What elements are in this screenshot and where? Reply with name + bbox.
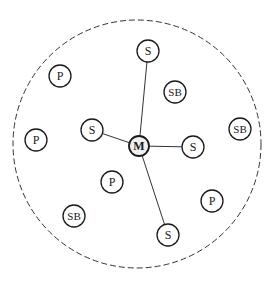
- node-slave-s2: S: [81, 119, 103, 141]
- node-parked-p3: P: [101, 171, 123, 193]
- nodes-group: MSSSSSBSBSBPPPP: [25, 40, 251, 246]
- node-standby-sb1: SB: [164, 81, 186, 103]
- node-label: S: [165, 228, 172, 242]
- edge-m-s2: [102, 134, 129, 143]
- diagram-svg: MSSSSSBSBSBPPPP: [0, 0, 275, 284]
- node-parked-p2: P: [25, 129, 47, 151]
- node-label: P: [57, 69, 64, 83]
- edge-m-s3: [149, 146, 182, 147]
- piconet-diagram: MSSSSSBSBSBPPPP: [0, 0, 275, 284]
- node-standby-sb2: SB: [229, 118, 251, 140]
- node-slave-s1: S: [137, 40, 159, 62]
- edge-m-s1: [140, 62, 147, 136]
- node-label: S: [89, 123, 96, 137]
- node-label: SB: [168, 86, 181, 98]
- node-parked-p1: P: [49, 65, 71, 87]
- node-master-m: M: [129, 136, 149, 156]
- node-label: P: [109, 175, 116, 189]
- node-slave-s3: S: [182, 136, 204, 158]
- node-label: SB: [67, 210, 80, 222]
- edge-m-s4: [142, 156, 164, 225]
- node-label: S: [145, 44, 152, 58]
- node-slave-s4: S: [157, 224, 179, 246]
- node-standby-sb3: SB: [63, 205, 85, 227]
- node-label: M: [133, 139, 144, 153]
- node-label: P: [33, 133, 40, 147]
- node-label: S: [190, 140, 197, 154]
- node-label: SB: [233, 123, 246, 135]
- node-parked-p4: P: [201, 190, 223, 212]
- node-label: P: [209, 194, 216, 208]
